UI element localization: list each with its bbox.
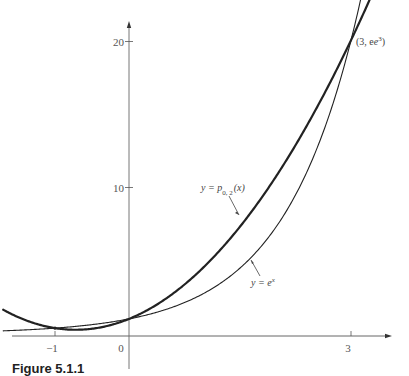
p02-curve (3, 0, 369, 330)
point-annotation: (3, ee3) (356, 35, 385, 48)
x-axis-arrow-icon (385, 334, 392, 338)
x-tick-label: 0 (118, 342, 124, 354)
curves (3, 0, 369, 331)
exp-curve (3, 0, 361, 331)
figure-caption: Figure 5.1.1 (12, 361, 84, 376)
exp-curve-label: y = ex (250, 260, 276, 288)
x-tick-label: −1 (46, 342, 58, 354)
x-tick-label: 3 (345, 342, 351, 354)
exp-label-arrowhead (251, 260, 254, 264)
intersection-point (53, 326, 56, 329)
svg-text:y = p0, 2(x): y = p0, 2(x) (200, 182, 245, 197)
p-curve-label: y = p0, 2(x) (200, 182, 245, 215)
svg-text:y = ex: y = ex (250, 276, 276, 288)
ticks: −1031020 (46, 36, 351, 355)
p-label-pointer (229, 196, 239, 215)
y-tick-label: 10 (113, 182, 125, 194)
y-tick-label: 20 (113, 36, 125, 48)
y-axis-arrow-icon (127, 21, 131, 28)
